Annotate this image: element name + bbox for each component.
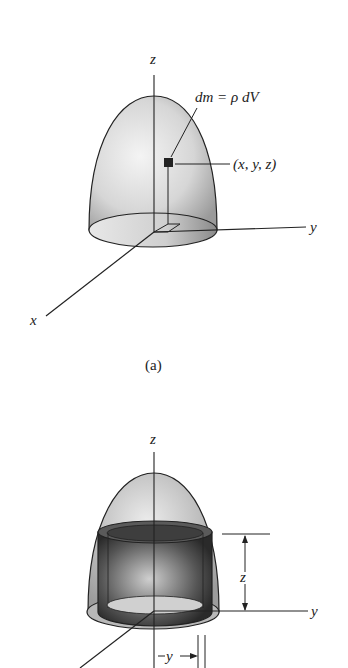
mass-element-label: dm = ρ dV	[195, 89, 260, 105]
z-dim-arrow-down-icon	[242, 603, 248, 611]
y-axis-label: y	[309, 603, 318, 619]
y-dim-arrow-icon	[190, 653, 198, 659]
z-axis-label: z	[149, 431, 156, 447]
shell-inner-rim	[107, 525, 203, 541]
y-dimension-label: y	[164, 648, 173, 664]
x-axis-label: x	[29, 312, 37, 328]
caption-a: (a)	[145, 357, 162, 374]
figure-b: z y z y	[80, 431, 318, 668]
paraboloid-base	[89, 213, 217, 247]
x-axis	[46, 232, 154, 316]
z-dim-arrow-up-icon	[242, 535, 248, 543]
y-axis-label: y	[308, 219, 317, 235]
figure-a: z y x dm = ρ dV (x, y, z) (a)	[29, 51, 317, 374]
point-coord-label: (x, y, z)	[233, 156, 276, 173]
mass-element-cube	[164, 158, 173, 167]
z-dimension-label: z	[239, 569, 246, 585]
paraboloid-body	[89, 96, 217, 230]
diagram-canvas: z y x dm = ρ dV (x, y, z) (a) z	[0, 0, 348, 668]
z-axis-label: z	[149, 51, 156, 67]
